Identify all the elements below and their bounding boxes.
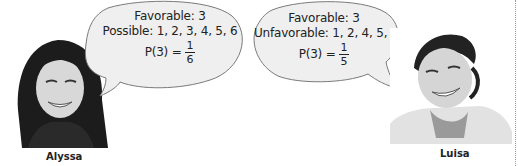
possible-line: Possible: 1, 2, 3, 4, 5, 6: [100, 24, 240, 39]
favorable-line: Favorable: 3: [100, 9, 240, 24]
numerator: 1: [339, 42, 350, 55]
probability-expression: P(3) = 1 6: [145, 40, 196, 65]
probability-label: P(3) =: [145, 45, 182, 60]
denominator: 6: [187, 53, 194, 65]
luisa-photo: [390, 28, 512, 144]
probability-label: P(3) =: [299, 47, 336, 62]
dotted-divider: [515, 0, 516, 166]
denominator: 5: [341, 55, 348, 67]
numerator: 1: [185, 40, 196, 53]
probability-expression: P(3) = 1 5: [299, 42, 350, 67]
favorable-line: Favorable: 3: [254, 11, 394, 26]
alyssa-speech-bubble: Favorable: 3 Possible: 1, 2, 3, 4, 5, 6 …: [60, 0, 245, 100]
fraction: 1 6: [185, 40, 196, 65]
luisa-name-label: Luisa: [440, 148, 470, 159]
fraction: 1 5: [339, 42, 350, 67]
alyssa-name-label: Alyssa: [46, 151, 82, 162]
unfavorable-line: Unfavorable: 1, 2, 4, 5, 6: [254, 26, 394, 41]
luisa-speech-bubble: Favorable: 3 Unfavorable: 1, 2, 4, 5, 6 …: [252, 0, 402, 100]
